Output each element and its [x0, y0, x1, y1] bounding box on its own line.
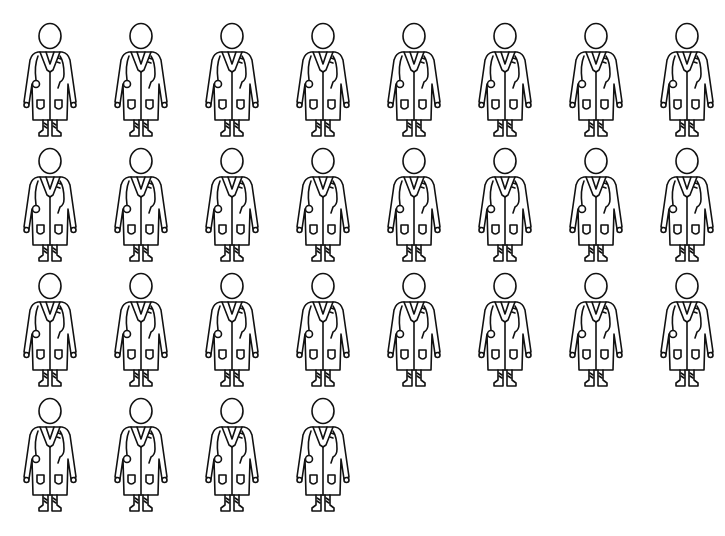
doctor-icon [291, 22, 355, 138]
doctor-icon [291, 272, 355, 388]
title-cropped [0, 0, 725, 6]
doctor-icon [655, 22, 719, 138]
doctor-icon [655, 147, 719, 263]
pictograph-row [18, 272, 723, 397]
doctor-icon [109, 272, 173, 388]
doctor-pictograph-grid [18, 22, 723, 522]
doctor-icon [382, 22, 446, 138]
doctor-icon [291, 147, 355, 263]
doctor-icon [382, 272, 446, 388]
doctor-icon [291, 397, 355, 513]
doctor-icon [200, 272, 264, 388]
doctor-icon [200, 147, 264, 263]
pictograph-row [18, 147, 723, 272]
doctor-icon [18, 147, 82, 263]
doctor-icon [473, 147, 537, 263]
doctor-icon [473, 272, 537, 388]
doctor-icon [564, 272, 628, 388]
doctor-icon [18, 22, 82, 138]
doctor-icon [200, 22, 264, 138]
doctor-icon [564, 147, 628, 263]
doctor-icon [109, 147, 173, 263]
doctor-icon [18, 272, 82, 388]
doctor-icon [109, 22, 173, 138]
doctor-icon [109, 397, 173, 513]
doctor-icon [655, 272, 719, 388]
pictograph-row [18, 397, 723, 522]
doctor-icon [473, 22, 537, 138]
doctor-icon [382, 147, 446, 263]
pictograph-row [18, 22, 723, 147]
doctor-icon [564, 22, 628, 138]
doctor-icon [18, 397, 82, 513]
doctor-icon [200, 397, 264, 513]
